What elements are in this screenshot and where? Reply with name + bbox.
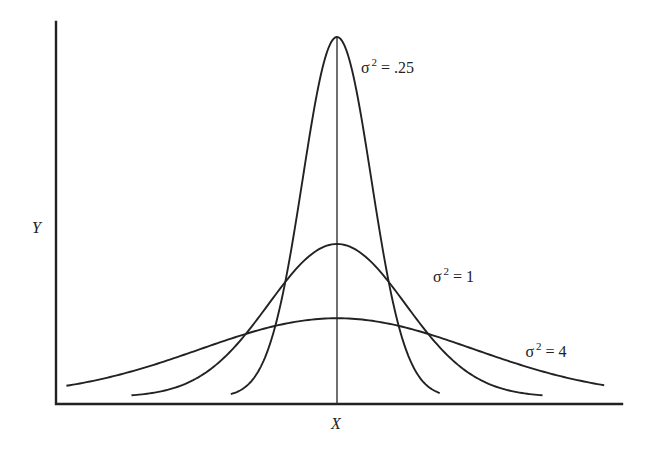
normal-distributions-chart: Y X σ2 = .25σ2 = 1σ2 = 4 [0, 0, 651, 455]
label-value: = .25 [377, 59, 414, 76]
label-value: = 4 [542, 343, 567, 360]
curve-label-variance-1: σ2 = 1 [433, 265, 474, 285]
sigma-symbol: σ [361, 59, 370, 76]
curve-variance-4 [66, 318, 604, 386]
sigma-symbol: σ [433, 268, 442, 285]
label-value: = 1 [449, 268, 474, 285]
curves-group [66, 37, 604, 395]
y-axis-label: Y [32, 219, 43, 236]
curve-labels-group: σ2 = .25σ2 = 1σ2 = 4 [361, 56, 567, 360]
sigma-symbol: σ [525, 343, 534, 360]
curve-label-variance-0.25: σ2 = .25 [361, 56, 414, 76]
curve-label-variance-4: σ2 = 4 [525, 340, 566, 360]
curve-variance-0.25 [231, 37, 440, 394]
x-axis-label: X [330, 415, 342, 432]
